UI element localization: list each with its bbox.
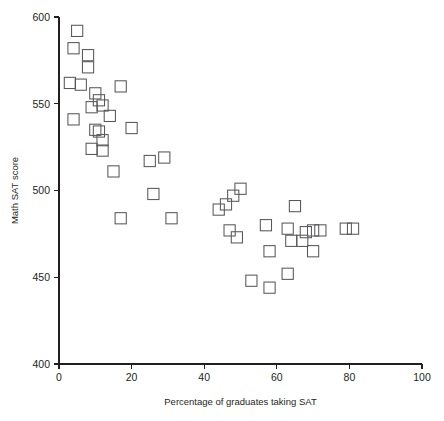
data-point — [82, 62, 93, 73]
data-point — [235, 183, 246, 194]
data-point — [97, 135, 108, 146]
data-point — [82, 50, 93, 61]
data-point — [126, 122, 137, 133]
data-point — [228, 190, 239, 201]
data-point — [340, 223, 351, 234]
data-point — [289, 201, 300, 212]
data-point — [75, 79, 86, 90]
data-point — [166, 213, 177, 224]
x-tick-label: 60 — [271, 371, 283, 383]
x-tick-label: 100 — [413, 371, 431, 383]
y-tick-label: 600 — [32, 11, 50, 23]
data-point — [315, 225, 326, 236]
x-tick-label: 20 — [126, 371, 138, 383]
y-tick-label: 550 — [32, 98, 50, 110]
data-points-group — [64, 25, 358, 293]
data-point — [64, 77, 75, 88]
y-tick-label: 400 — [32, 358, 50, 370]
data-point — [246, 275, 257, 286]
data-point — [260, 220, 271, 231]
data-point — [297, 235, 308, 246]
data-point — [108, 166, 119, 177]
x-tick-label: 80 — [344, 371, 356, 383]
data-point — [86, 143, 97, 154]
data-point — [97, 145, 108, 156]
data-point — [264, 246, 275, 257]
x-tick-label: 0 — [56, 371, 62, 383]
data-point — [347, 223, 358, 234]
x-tick-label: 40 — [198, 371, 210, 383]
data-point — [264, 282, 275, 293]
data-point — [115, 213, 126, 224]
data-point — [282, 268, 293, 279]
data-point — [90, 88, 101, 99]
chart-canvas: 400450500550600020406080100Percentage of… — [0, 0, 444, 421]
data-point — [115, 81, 126, 92]
data-point — [308, 246, 319, 257]
scatter-chart: 400450500550600020406080100Percentage of… — [0, 0, 444, 421]
data-point — [86, 102, 97, 113]
data-point — [148, 188, 159, 199]
chart-ticks — [54, 17, 422, 369]
data-point — [286, 235, 297, 246]
y-tick-label: 450 — [32, 271, 50, 283]
data-point — [231, 232, 242, 243]
x-axis-title: Percentage of graduates taking SAT — [164, 396, 317, 407]
data-point — [68, 114, 79, 125]
data-point — [224, 225, 235, 236]
data-point — [68, 43, 79, 54]
y-tick-label: 500 — [32, 184, 50, 196]
data-point — [72, 25, 83, 36]
data-point — [104, 110, 115, 121]
chart-axes — [59, 17, 422, 364]
y-axis-title: Math SAT score — [9, 157, 20, 224]
data-point — [282, 223, 293, 234]
data-point — [159, 152, 170, 163]
data-point — [144, 155, 155, 166]
